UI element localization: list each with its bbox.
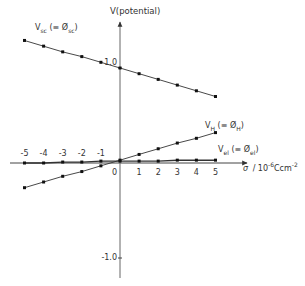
series-label: VH (≡ ØH) (205, 120, 244, 132)
data-point (138, 72, 141, 75)
x-tick-label: -3 (59, 149, 67, 158)
x-tick-label: -5 (21, 149, 29, 158)
data-point (99, 160, 102, 163)
data-point (157, 147, 160, 150)
series-label: Vel (≡ Øel) (218, 144, 259, 156)
x-tick-label: 1 (137, 168, 142, 177)
series-label: Vsc (≡ Øsc) (35, 22, 78, 34)
potential-chart: V(potential) σ / 10-6Ccm-2 -5-4-3-2-1012… (0, 0, 305, 286)
data-point (80, 170, 83, 173)
x-tick-label: 0 (112, 168, 117, 177)
y-axis-label: V(potential) (110, 6, 160, 16)
data-point (176, 84, 179, 87)
data-point (42, 45, 45, 48)
data-point (214, 95, 217, 98)
x-tick-label: 5 (213, 168, 218, 177)
series-labels: Vsc (≡ Øsc)VH (≡ ØH)Vel (≡ Øel) (35, 22, 259, 156)
x-tick-label: -1 (97, 149, 105, 158)
data-point (99, 164, 102, 167)
data-point (214, 131, 217, 134)
data-point (119, 67, 122, 70)
data-point (99, 61, 102, 64)
x-tick-label: -2 (78, 149, 86, 158)
data-point (23, 39, 26, 42)
x-axis-label: σ / 10-6Ccm-2 (243, 161, 298, 173)
data-point (176, 159, 179, 162)
data-point (157, 160, 160, 163)
data-point (42, 181, 45, 184)
data-point (195, 137, 198, 140)
svg-text:σ / 10-6Ccm-2: σ / 10-6Ccm-2 (243, 161, 298, 173)
data-point (119, 160, 122, 163)
data-point (195, 89, 198, 92)
data-point (214, 159, 217, 162)
data-point (23, 162, 26, 165)
data-point (23, 186, 26, 189)
data-point (176, 142, 179, 145)
data-point (61, 175, 64, 178)
data-point (138, 153, 141, 156)
data-point (138, 160, 141, 163)
x-tick-label: 2 (156, 168, 161, 177)
data-point (61, 50, 64, 53)
x-tick-label: 4 (194, 168, 199, 177)
x-tick-label: -4 (40, 149, 48, 158)
x-tick-label: 3 (175, 168, 180, 177)
data-point (195, 159, 198, 162)
data-point (80, 55, 83, 58)
data-point (80, 161, 83, 164)
data-point (42, 162, 45, 165)
data-point (157, 78, 160, 81)
data-point (61, 161, 64, 164)
y-tick-label: -1.0 (101, 253, 117, 262)
